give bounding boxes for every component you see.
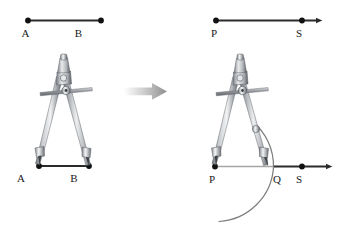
compass-pencil-cuff-r [260,147,269,158]
compass-pivot-screw [60,75,66,81]
ray-ps-with-arc: P Q S [209,164,327,185]
label-a-top: A [22,27,30,39]
compass-leg-knob-r [252,125,259,132]
compass-arc [219,122,274,222]
compass-knurled-top-r [237,54,244,60]
segment-ab-measured: A B [17,163,92,184]
arrow-right-icon [124,83,167,100]
label-p-top: P [211,27,217,39]
construction-diagram: A B A B [0,0,339,237]
compass-adjust-wheel-center-r [241,89,244,92]
ray-ps: P S [211,18,317,39]
compass-right [212,54,269,166]
compass-arc-path [219,122,274,222]
label-q-bottom: Q [273,173,281,185]
compass-pencil-cuff [82,147,91,158]
given-segment-panel: A B A B [17,18,104,184]
label-b-bottom: B [70,172,77,184]
segment-ab: A B [22,18,104,39]
point-s-bottom [299,164,305,170]
label-s-bottom: S [296,173,302,185]
label-s-top: S [296,27,302,39]
label-a-bottom: A [17,172,25,184]
point-a-top [25,18,31,24]
point-s-top [299,18,305,24]
point-b-top [98,18,104,24]
transition-arrow [124,83,167,100]
compass-left [35,54,92,166]
compass-pivot-screw-r [237,75,243,81]
point-p-top [213,18,219,24]
compass-adjust-wheel-center [65,89,68,92]
constructed-segment-panel: P S P Q S [209,18,327,222]
label-b-top: B [75,27,82,39]
label-p-bottom: P [209,173,215,185]
compass-knurled-top [61,54,68,60]
